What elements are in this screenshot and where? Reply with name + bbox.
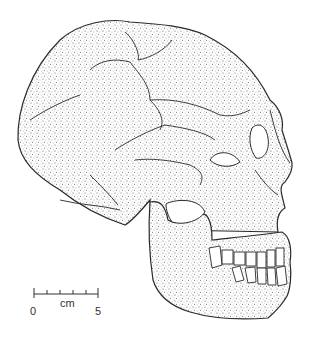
scale-start-label: 0 <box>30 306 36 317</box>
cranium <box>18 21 292 232</box>
skull-illustration: cm 0 5 <box>0 0 312 342</box>
orbit <box>250 125 268 158</box>
scale-unit-label: cm <box>60 298 75 309</box>
scale-end-label: 5 <box>95 306 101 317</box>
